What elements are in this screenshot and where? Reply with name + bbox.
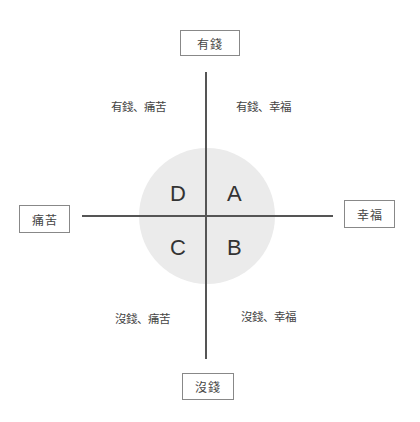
quadrant-label-top-right: 有錢、幸福 [236,98,291,114]
quadrant-label-top-left: 有錢、痛苦 [111,98,166,114]
axis-label-top: 有錢 [180,30,240,56]
quadrant-letter-c: C [170,235,186,261]
axis-label-right: 幸福 [344,200,395,228]
horizontal-axis-line [82,215,333,217]
quadrant-letter-b: B [227,235,242,261]
axis-label-left: 痛苦 [19,205,70,233]
quadrant-letter-d: D [170,181,186,207]
quadrant-label-bottom-left: 沒錢、痛苦 [115,310,170,326]
axis-label-bottom: 沒錢 [182,373,234,400]
quadrant-letter-a: A [227,181,242,207]
quadrant-diagram: 有錢 痛苦 幸福 沒錢 有錢、痛苦 有錢、幸福 沒錢、痛苦 沒錢、幸福 D A … [0,0,420,422]
quadrant-label-bottom-right: 沒錢、幸福 [241,308,296,324]
